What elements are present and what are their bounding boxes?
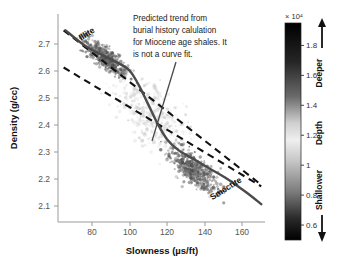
scatter-point (198, 173, 200, 175)
scatter-point (181, 185, 184, 188)
scatter-point (213, 184, 215, 186)
scatter-point (198, 155, 201, 158)
scatter-point (159, 148, 163, 152)
colorbar-gradient-bar[interactable] (285, 23, 301, 240)
scatter-point (101, 44, 103, 46)
scatter-point (154, 111, 157, 114)
scatter-point (140, 96, 143, 99)
y-axis-title: Density (g/cc) (8, 87, 19, 149)
scatter-point (133, 131, 136, 134)
scatter-point (215, 176, 218, 179)
scatter-point (196, 168, 199, 171)
scatter-point (187, 158, 189, 160)
scatter-point (193, 137, 195, 139)
scatter-point (111, 64, 114, 67)
scatter-point (122, 69, 124, 71)
scatter-point (206, 172, 209, 175)
scatter-point (201, 178, 204, 181)
scatter-point (183, 172, 185, 174)
scatter-point (126, 98, 129, 101)
colorbar-exponent-label: × 10⁴ (285, 12, 303, 21)
scatter-point (154, 135, 156, 137)
scatter-point (185, 131, 187, 133)
scatter-point (123, 62, 125, 64)
scatter-point (133, 123, 135, 125)
scatter-point (120, 104, 122, 106)
scatter-point (174, 106, 177, 109)
scatter-point (147, 92, 151, 96)
scatter-point (175, 160, 178, 163)
scatter-point (177, 164, 180, 167)
scatter-point (222, 201, 225, 204)
scatter-point (192, 161, 194, 163)
scatter-point (171, 134, 173, 136)
scatter-point (105, 49, 107, 51)
scatter-point (149, 150, 152, 153)
scatter-point (203, 183, 206, 186)
colorbar-tick-label: 1.8 (306, 41, 318, 50)
scatter-point (115, 73, 117, 75)
x-tick-label: 100 (123, 227, 137, 237)
scatter-point (143, 101, 145, 103)
scatter-point (177, 177, 179, 179)
scatter-point (127, 119, 129, 121)
scatter-point (86, 55, 89, 58)
scatter-point (105, 67, 107, 69)
scatter-point (138, 136, 141, 139)
scatter-point (117, 64, 119, 66)
scatter-point (115, 116, 118, 119)
scatter-point (119, 60, 121, 62)
scatter-point (188, 181, 191, 184)
scatter-point (181, 158, 183, 160)
scatter-point (131, 100, 134, 103)
scatter-point (207, 177, 210, 180)
scatter-point (173, 162, 176, 165)
scatter-point (119, 68, 122, 71)
scatter-point (158, 142, 162, 146)
scatter-point (137, 99, 139, 101)
scatter-point (166, 108, 170, 112)
scatter-point (116, 57, 119, 60)
scatter-point (174, 168, 176, 170)
scatter-point (215, 182, 219, 186)
scatter-point (190, 179, 193, 182)
scatter-point (130, 118, 133, 121)
scatter-point (169, 146, 172, 149)
scatter-point (162, 140, 164, 142)
scatter-point (124, 98, 126, 100)
scatter-point (183, 180, 185, 182)
scatter-point (111, 53, 113, 55)
scatter-point (212, 178, 215, 181)
scatter-point (93, 62, 95, 64)
scatter-point (141, 144, 144, 147)
scatter-point (196, 164, 198, 166)
scatter-point (158, 162, 161, 165)
scatter-point (141, 106, 145, 110)
scatter-point (100, 92, 102, 94)
scatter-point (187, 121, 189, 123)
scatter-point (175, 131, 178, 134)
scatter-point (196, 189, 198, 191)
scatter-point (151, 130, 155, 134)
scatter-point (136, 116, 138, 118)
density-vs-slowness-chart: 2.7 2.6 2.5 2.4 2.3 2.2 2.1 80 100 120 1… (0, 0, 340, 267)
scatter-point (197, 179, 199, 181)
scatter-point (147, 138, 150, 141)
scatter-point (190, 168, 192, 170)
scatter-point (108, 71, 111, 74)
x-tick-label: 80 (87, 227, 97, 237)
scatter-point (193, 171, 195, 173)
scatter-point (166, 99, 168, 101)
scatter-point (181, 161, 184, 164)
scatter-point (108, 86, 111, 89)
scatter-point (185, 105, 188, 108)
scatter-point (133, 88, 136, 91)
scatter-point (106, 83, 108, 85)
scatter-point (124, 80, 126, 82)
x-tick-label: 140 (198, 227, 212, 237)
scatter-point (187, 149, 190, 152)
scatter-point (157, 93, 161, 97)
scatter-point (119, 95, 122, 98)
scatter-point (118, 110, 122, 114)
scatter-point (112, 92, 115, 95)
